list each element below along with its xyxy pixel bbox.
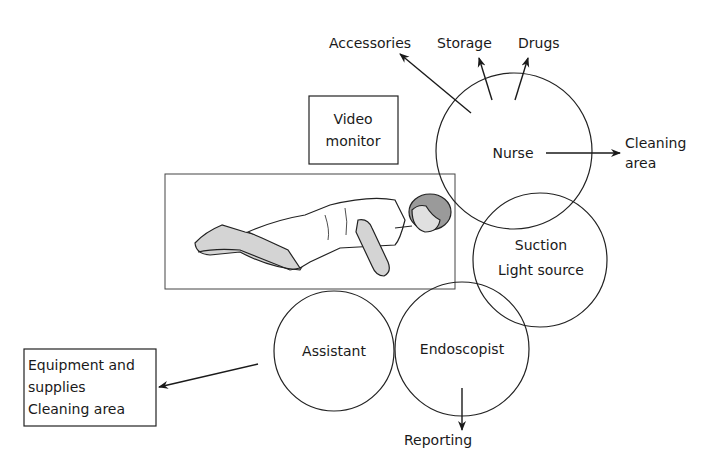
equipment-label-1: Equipment and [28,357,135,373]
diagram-canvas: Video monitor Nurse Suction Light source… [0,0,724,466]
cleaning-label-2: area [625,155,656,171]
assistant-label: Assistant [302,343,366,359]
suction-circle [473,193,607,327]
video-monitor-label-1: Video [333,111,372,127]
accessories-label: Accessories [329,35,411,51]
video-monitor-label-2: monitor [326,133,381,149]
patient-figure [195,194,451,276]
cleaning-label-1: Cleaning [625,135,686,151]
arrow-drugs [515,58,528,100]
storage-label: Storage [437,35,492,51]
suction-label-1: Suction [515,237,567,253]
nurse-label: Nurse [492,145,533,161]
equipment-label-2: supplies [28,379,86,395]
endoscopist-label: Endoscopist [420,341,505,357]
arrow-accessories [400,54,471,113]
video-monitor-box [309,96,398,164]
arrow-storage [479,58,492,100]
equipment-label-3: Cleaning area [28,401,125,417]
drugs-label: Drugs [518,35,560,51]
endoscopy-room-layout-diagram: Video monitor Nurse Suction Light source… [0,0,724,466]
suction-label-2: Light source [498,262,584,278]
reporting-label: Reporting [404,432,472,448]
arrow-equipment [159,364,258,387]
